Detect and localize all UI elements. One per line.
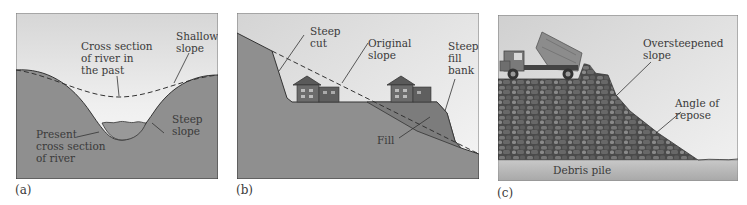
panel-a-river-cross-section: Cross section of river in the past Shall… bbox=[16, 13, 218, 179]
debris-pile-base bbox=[498, 160, 738, 181]
panel-b-letter: (b) bbox=[236, 183, 253, 197]
panel-c-letter: (c) bbox=[497, 186, 513, 200]
river-cross-section-diagram: Cross section of river in the past Shall… bbox=[16, 13, 218, 179]
label-fill: Fill bbox=[377, 134, 395, 146]
cut-and-fill-diagram: Steep cut Original slope Steep fill bank… bbox=[237, 13, 479, 179]
panel-b-cut-and-fill: Steep cut Original slope Steep fill bank… bbox=[237, 13, 479, 179]
panel-c-debris-pile: Oversteepened slope Angle of repose Debr… bbox=[498, 15, 738, 181]
panel-a-letter: (a) bbox=[15, 183, 32, 197]
debris-pile-diagram: Oversteepened slope Angle of repose Debr… bbox=[498, 15, 738, 181]
label-debris-pile: Debris pile bbox=[553, 164, 611, 176]
